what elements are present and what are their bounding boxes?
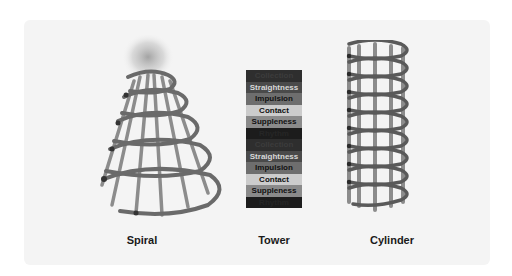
spiral-figure — [100, 35, 230, 225]
tower-row-straightness: Straightness — [246, 82, 302, 94]
tower-row-collection: Collection — [246, 139, 302, 151]
tower-row-contact: Contact — [246, 105, 302, 117]
tower-row-rhythm: Rhythm — [246, 128, 302, 140]
tower-row-collection: Collection — [246, 70, 302, 82]
tower-row-contact: Contact — [246, 174, 302, 186]
tower-row-rhythm: Rhythm — [246, 197, 302, 209]
tower-stack: CollectionStraightnessImpulsionContactSu… — [246, 70, 302, 208]
cylinder-figure — [345, 40, 425, 220]
label-tower: Tower — [234, 234, 314, 246]
label-spiral: Spiral — [102, 234, 182, 246]
tower-row-suppleness: Suppleness — [246, 185, 302, 197]
label-cylinder: Cylinder — [352, 234, 432, 246]
tower-row-straightness: Straightness — [246, 151, 302, 163]
tower-row-suppleness: Suppleness — [246, 116, 302, 128]
tower-row-impulsion: Impulsion — [246, 162, 302, 174]
tower-row-impulsion: Impulsion — [246, 93, 302, 105]
